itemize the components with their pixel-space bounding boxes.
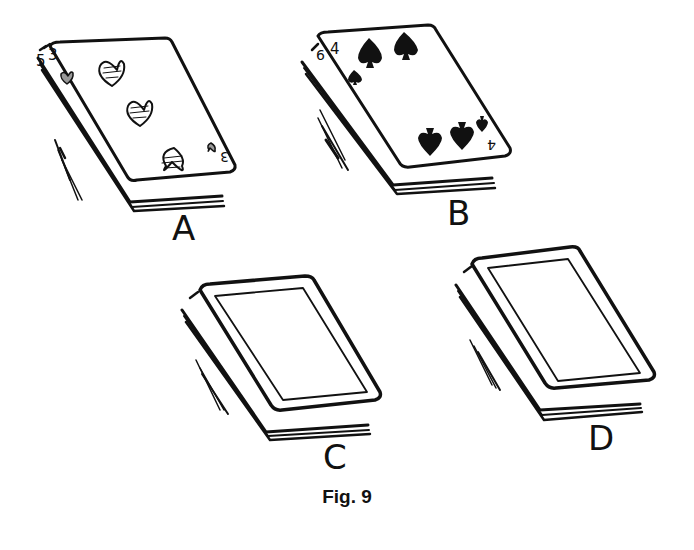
deck-a-label: A — [172, 208, 195, 248]
deck-d — [456, 247, 654, 420]
deck-c-label: C — [323, 437, 347, 477]
svg-text:4: 4 — [330, 40, 340, 58]
figure-caption: Fig. 9 — [0, 486, 694, 508]
deck-b: 6 4 4 — [302, 25, 510, 194]
svg-text:3: 3 — [220, 149, 229, 165]
deck-d-label: D — [588, 418, 614, 458]
deck-c — [182, 276, 380, 440]
svg-text:4: 4 — [487, 137, 496, 153]
deck-b-label: B — [447, 193, 470, 233]
svg-text:5: 5 — [36, 52, 46, 70]
svg-text:3: 3 — [48, 46, 58, 64]
svg-text:6: 6 — [316, 47, 325, 63]
card-decks-illustration: 5 3 3 6 — [0, 0, 694, 550]
deck-a: 5 3 3 — [36, 38, 235, 211]
